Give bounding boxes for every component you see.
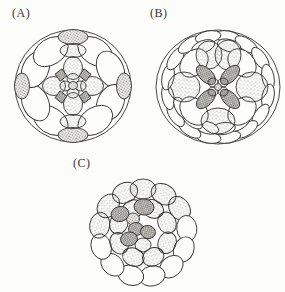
panel-b-label: (B) <box>150 6 168 21</box>
textbook-figure-page: (A) (B) (C) <box>0 0 285 292</box>
embryo-cleavage-illustration <box>0 0 285 292</box>
embryo-b-drawing <box>156 29 280 146</box>
panel-a-label: (A) <box>12 6 30 21</box>
embryo-a-drawing <box>15 30 132 143</box>
panel-c-label: (C) <box>73 156 91 171</box>
embryo-c-drawing <box>88 178 199 288</box>
